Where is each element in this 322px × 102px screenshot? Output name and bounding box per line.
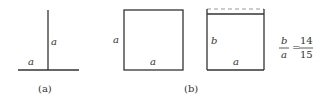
figure-a: a a (a): [18, 10, 79, 94]
ratio-rhs-numerator: 14: [300, 35, 313, 46]
figure-b-rectangle: b a: [207, 9, 264, 70]
figure-b-square: a a: [113, 10, 183, 70]
vertical-length-label: a: [51, 36, 57, 47]
ratio-rhs-denominator: 15: [300, 49, 313, 60]
caption-a: (a): [38, 83, 52, 94]
rect-bottom-label: a: [233, 56, 239, 67]
ratio-equation: b a = 14 15: [279, 35, 313, 60]
rect-left-label: b: [211, 35, 217, 46]
horizontal-length-label: a: [28, 56, 34, 67]
square-bottom-label: a: [150, 56, 156, 67]
diagram-canvas: a a (a) a a b a b a = 14 15 (b): [0, 0, 322, 102]
square-left-label: a: [113, 34, 119, 45]
caption-b: (b): [184, 83, 198, 94]
ratio-lhs-denominator: a: [281, 49, 287, 60]
ratio-lhs-numerator: b: [281, 35, 287, 46]
